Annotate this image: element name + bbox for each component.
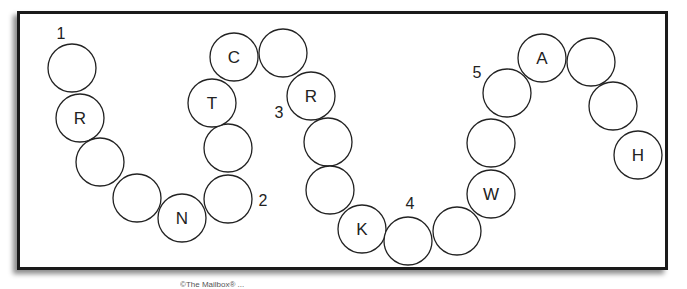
copyright-caption: ©The Mailbox® ... [180,280,244,289]
letter-circle: A [518,34,566,82]
letter-circle [259,29,307,77]
circle-shape [433,207,481,255]
circle-letter: R [305,87,317,106]
circle-shape [259,29,307,77]
letter-circle: C [210,33,258,81]
circle-letter: A [536,49,548,68]
letter-circle [304,118,352,166]
circle-letter: N [176,209,188,228]
letter-circle: T [188,79,236,127]
circle-shape [304,118,352,166]
letter-circle: N [158,194,206,242]
circle-shape [76,138,124,186]
letter-circle: W [467,170,515,218]
start-number-marker: 5 [473,64,482,81]
circle-shape [589,82,637,130]
circle-shape [483,69,531,117]
circle-shape [306,166,354,214]
circle-shape [384,217,432,265]
letter-circle [113,174,161,222]
word-snake-puzzle: RNTCRKWAH12345 [0,0,687,289]
letter-circle [384,217,432,265]
start-number-marker: 2 [259,192,268,209]
letter-circle [483,69,531,117]
circle-shape [204,175,252,223]
letter-circle [567,38,615,86]
circle-letter: C [228,48,240,67]
letter-circle [467,119,515,167]
circle-shape [204,124,252,172]
circle-letter: R [74,109,86,128]
letter-circle [433,207,481,255]
start-number-marker: 3 [275,104,284,121]
letter-circle [306,166,354,214]
start-number-marker: 4 [406,195,415,212]
letter-circle: H [614,131,662,179]
letter-circle [589,82,637,130]
circle-letter: H [632,146,644,165]
start-number-marker: 1 [57,25,66,42]
letter-circle: R [56,94,104,142]
letter-circle [76,138,124,186]
letter-circle: K [338,205,386,253]
circle-letter: K [356,220,368,239]
circle-shape [48,44,96,92]
circle-shape [567,38,615,86]
letter-circle [204,124,252,172]
letter-circle: R [287,72,335,120]
letter-circle [204,175,252,223]
circle-letter: W [483,185,499,204]
circle-shape [467,119,515,167]
circle-shape [113,174,161,222]
circle-letter: T [207,94,217,113]
letter-circle [48,44,96,92]
